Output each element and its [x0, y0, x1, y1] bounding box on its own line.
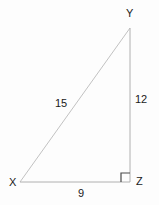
vertex-label-y: Y [126, 8, 133, 19]
vertex-label-x: X [9, 177, 16, 188]
triangle-diagram: Y X Z 15 12 9 [0, 0, 159, 205]
side-hypotenuse-xy [20, 28, 130, 182]
side-label-vertical: 12 [135, 94, 147, 105]
side-label-hypotenuse: 15 [55, 98, 67, 109]
side-label-base: 9 [78, 188, 84, 199]
vertex-label-z: Z [136, 176, 143, 187]
right-angle-marker-icon [121, 173, 130, 182]
